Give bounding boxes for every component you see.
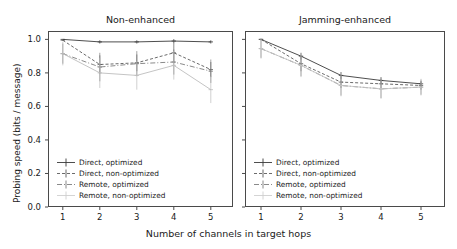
legend-item: Remote, optimized [253, 179, 362, 190]
legend-key-remote-non-optimized-icon [56, 190, 76, 201]
legend-item: Direct, optimized [56, 157, 165, 168]
legend-key-direct-non-optimized-icon [56, 168, 76, 179]
legend-label: Remote, optimized [76, 180, 149, 189]
y-tick-label: 0.4 [15, 135, 41, 145]
legend-item: Remote, non-optimized [253, 190, 362, 201]
legend-item: Direct, non-optimized [56, 168, 165, 179]
legend-label: Direct, non-optimized [76, 169, 159, 178]
x-tick-label: 5 [414, 212, 428, 222]
x-tick-label: 2 [294, 212, 308, 222]
error-bars [261, 39, 421, 99]
legend-label: Direct, non-optimized [273, 169, 356, 178]
y-tick-label: 0.0 [15, 202, 41, 212]
y-tick-label: 1.0 [15, 34, 41, 44]
legend-key-remote-non-optimized-icon [253, 190, 273, 201]
legend-item: Remote, non-optimized [56, 190, 165, 201]
x-tick-label: 4 [374, 212, 388, 222]
legend-key-remote-optimized-icon [253, 179, 273, 190]
legend-key-direct-optimized-icon [56, 157, 76, 168]
legend-key-direct-non-optimized-icon [253, 168, 273, 179]
legend-item: Remote, optimized [56, 179, 165, 190]
legend-item: Direct, optimized [253, 157, 362, 168]
legend-key-remote-optimized-icon [56, 179, 76, 190]
y-tick-label: 0.2 [15, 168, 41, 178]
x-tick-label: 5 [204, 212, 218, 222]
legend-left: Direct, optimized Direct, non-optimized … [56, 157, 165, 201]
legend-item: Direct, non-optimized [253, 168, 362, 179]
x-tick-label: 1 [56, 212, 70, 222]
legend-label: Remote, non-optimized [273, 191, 362, 200]
legend-label: Direct, optimized [273, 158, 339, 167]
legend-label: Remote, optimized [273, 180, 346, 189]
legend-key-direct-optimized-icon [253, 157, 273, 168]
x-axis-label: Number of channels in target hops [0, 228, 457, 239]
legend-label: Direct, optimized [76, 158, 142, 167]
figure: Probing speed (bits / message) Non-enhan… [0, 0, 457, 249]
x-tick-label: 4 [167, 212, 181, 222]
y-tick-label: 0.6 [15, 101, 41, 111]
x-tick-label: 3 [130, 212, 144, 222]
error-bars [63, 42, 211, 103]
data-series-group [61, 39, 424, 104]
x-tick-label: 3 [334, 212, 348, 222]
x-tick-label: 1 [254, 212, 268, 222]
legend-right: Direct, optimized Direct, non-optimized … [253, 157, 362, 201]
legend-label: Remote, non-optimized [76, 191, 165, 200]
error-bars [301, 53, 421, 87]
y-tick-label: 0.8 [15, 68, 41, 78]
x-tick-label: 2 [93, 212, 107, 222]
